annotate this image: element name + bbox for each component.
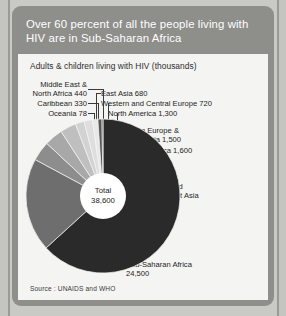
label-middle-east-north-africa: Middle East & North Africa 440 (33, 80, 87, 98)
figure-title: Over 60 percent of all the people living… (26, 17, 264, 45)
chart-panel: Adults & children living with HIV (thous… (18, 54, 268, 300)
label-western-central-europe: Western and Central Europe 720 (101, 99, 212, 108)
pie-center-total: Total 38,600 (80, 173, 126, 219)
label-caribbean: Caribbean 330 (37, 99, 87, 108)
figure-card: Over 60 percent of all the people living… (12, 6, 274, 306)
leader-line-middle-east-north-africa-h (88, 89, 104, 90)
page-left-rule (8, 0, 10, 316)
total-label: Total (95, 186, 111, 196)
source-note: Source : UNAIDS and WHO (30, 285, 116, 292)
page-right-rule (277, 0, 279, 316)
label-east-asia: East Asia 680 (101, 89, 147, 98)
total-value: 38,600 (91, 196, 115, 206)
page-right-margin (278, 0, 286, 316)
pie-chart: Total 38,600 (23, 116, 183, 276)
chart-page: Over 60 percent of all the people living… (0, 0, 286, 316)
chart-subtitle: Adults & children living with HIV (thous… (30, 61, 197, 71)
